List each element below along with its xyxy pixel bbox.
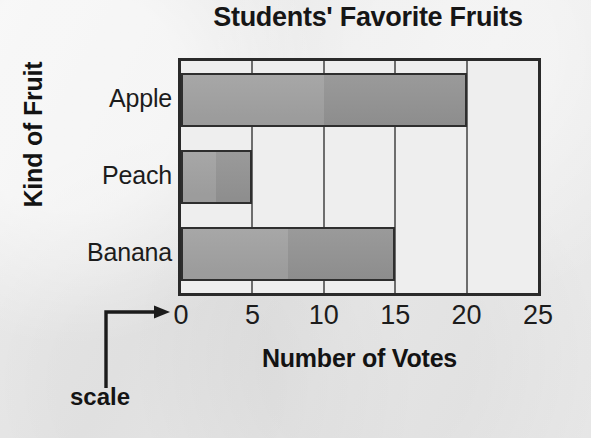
- x-tick-20: 20: [437, 300, 497, 331]
- bar-banana: [181, 227, 395, 281]
- category-label-banana: Banana: [12, 238, 172, 267]
- x-tick-5: 5: [222, 300, 282, 331]
- x-axis-title: Number of Votes: [178, 344, 541, 373]
- x-tick-10: 10: [294, 300, 354, 331]
- bar-chart-figure: Students' Favorite Fruits Kind of Fruit …: [0, 0, 591, 438]
- x-tick-25: 25: [508, 300, 568, 331]
- category-tick-labels: Apple Peach Banana: [8, 58, 172, 296]
- chart-title: Students' Favorite Fruits: [150, 2, 586, 33]
- scale-annotation: scale: [60, 300, 190, 430]
- bars-layer: [181, 61, 538, 293]
- bar-apple: [181, 73, 467, 127]
- scale-annotation-label: scale: [70, 383, 130, 411]
- x-tick-15: 15: [365, 300, 425, 331]
- plot-area: [178, 58, 541, 296]
- category-label-peach: Peach: [12, 161, 172, 190]
- x-axis-tick-labels: 0 5 10 15 20 25: [178, 300, 541, 334]
- bar-peach: [181, 150, 252, 204]
- category-label-apple: Apple: [12, 84, 172, 113]
